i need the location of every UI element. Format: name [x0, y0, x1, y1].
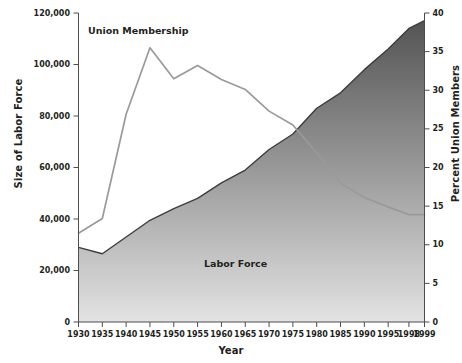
- left-tick-label: 120,000: [8, 9, 70, 18]
- right-tick-label: 10: [433, 240, 457, 249]
- union-membership-series-label: Union Membership: [88, 25, 189, 36]
- x-tick-label: 1999: [409, 330, 441, 339]
- right-tick-label: 0: [433, 318, 457, 327]
- x-axis-title: Year: [0, 345, 462, 356]
- chart-container: 020,00040,00060,00080,000100,000120,000 …: [0, 0, 462, 363]
- right-tick-label: 5: [433, 279, 457, 288]
- left-axis-ticks: [74, 13, 79, 322]
- left-tick-label: 0: [8, 318, 70, 327]
- left-tick-label: 40,000: [8, 215, 70, 224]
- left-axis-title: Size of Labor Force: [13, 54, 24, 214]
- right-tick-label: 40: [433, 9, 457, 18]
- chart-plot-area: [0, 0, 462, 363]
- x-axis-ticks: [79, 322, 425, 327]
- right-axis-ticks: [425, 13, 430, 322]
- left-tick-label: 20,000: [8, 266, 70, 275]
- right-axis-title: Percent Union Members: [450, 39, 461, 229]
- labor-force-area: [79, 21, 425, 322]
- labor-force-series-label: Labor Force: [204, 258, 267, 269]
